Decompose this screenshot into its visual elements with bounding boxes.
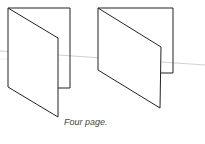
folded-card-right <box>98 8 173 108</box>
front-panel <box>98 8 161 108</box>
folded-card-left <box>8 8 70 117</box>
front-panel <box>8 8 58 117</box>
figure-caption: Four page. <box>64 117 108 127</box>
